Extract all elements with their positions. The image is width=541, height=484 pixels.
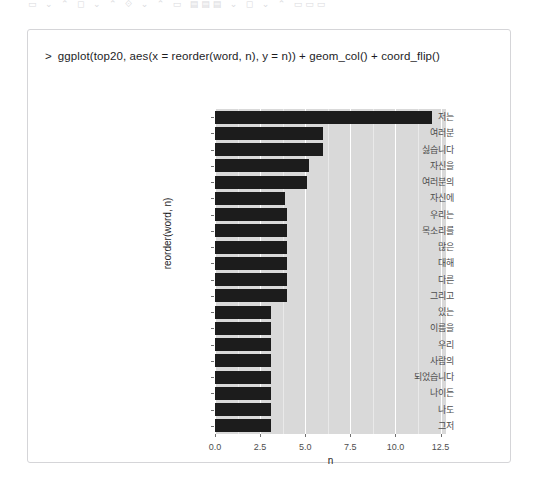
x-tick-mark <box>441 434 442 437</box>
y-tick-mark <box>211 345 214 346</box>
y-tick-label: 우리는 <box>370 210 454 220</box>
bar <box>215 257 287 270</box>
gridline-minor <box>418 109 419 434</box>
bar <box>215 273 287 286</box>
y-tick-mark <box>211 166 214 167</box>
y-tick-mark <box>211 215 214 216</box>
y-tick-mark <box>211 393 214 394</box>
gridline-major <box>441 109 442 434</box>
y-axis-title: reorder(word, n) <box>162 139 173 329</box>
gridline-minor <box>373 109 374 434</box>
bar <box>215 338 271 351</box>
x-tick-label: 12.5 <box>426 442 456 452</box>
gridline-major <box>305 109 306 434</box>
x-tick-mark <box>350 434 351 437</box>
y-tick-label: 나이든 <box>370 388 454 398</box>
y-tick-mark <box>211 198 214 199</box>
bar <box>215 289 287 302</box>
bar <box>215 387 271 400</box>
bar <box>215 306 271 319</box>
y-tick-label: 자신에 <box>370 193 454 203</box>
gridline-minor <box>238 109 239 434</box>
y-tick-label: 있는 <box>370 307 454 317</box>
bar <box>215 176 307 189</box>
y-tick-label: 여러분 <box>370 128 454 138</box>
x-tick-label: 0.0 <box>200 442 230 452</box>
gridline-major <box>215 109 216 434</box>
x-tick-mark <box>305 434 306 437</box>
gridline-major <box>350 109 351 434</box>
bar <box>215 419 271 432</box>
bar <box>215 354 271 367</box>
y-tick-mark <box>211 231 214 232</box>
y-tick-mark <box>211 410 214 411</box>
y-tick-mark <box>211 377 214 378</box>
y-tick-mark <box>211 133 214 134</box>
x-axis-title: n <box>215 455 446 466</box>
y-tick-label: 그리고 <box>370 291 454 301</box>
bar <box>215 208 287 221</box>
bar <box>215 371 271 384</box>
x-tick-label: 5.0 <box>290 442 320 452</box>
y-tick-label: 자신을 <box>370 161 454 171</box>
bar <box>215 224 287 237</box>
bar <box>215 241 287 254</box>
y-tick-mark <box>211 150 214 151</box>
console-prompt: > <box>45 50 52 62</box>
gridline-minor <box>283 109 284 434</box>
y-tick-label: 되었습니다 <box>370 372 454 382</box>
y-tick-mark <box>211 117 214 118</box>
y-tick-label: 대해 <box>370 258 454 268</box>
y-tick-label: 다른 <box>370 275 454 285</box>
bar <box>215 322 271 335</box>
y-tick-label: 이름을 <box>370 323 454 333</box>
y-tick-label: 많은 <box>370 242 454 252</box>
y-tick-label: 나도 <box>370 405 454 415</box>
console-command-line: >ggplot(top20, aes(x = reorder(word, n),… <box>45 50 440 62</box>
x-tick-label: 7.5 <box>335 442 365 452</box>
y-tick-mark <box>211 280 214 281</box>
x-tick-label: 2.5 <box>245 442 275 452</box>
scanned-toolbar-strip: ▭ ⌄ ⌃ ◻ ⌄ ⌃ ⟐ ⌄ ⌃ ▭ ▤▤▤ ⌄ ◻ ⌄ ⌃ ▭▭▭ <box>0 0 541 12</box>
x-tick-mark <box>395 434 396 437</box>
y-tick-label: 우리 <box>370 340 454 350</box>
y-tick-label: 여러분의 <box>370 177 454 187</box>
y-tick-label: 사람의 <box>370 356 454 366</box>
y-tick-label: 저는 <box>370 112 454 122</box>
x-tick-label: 10.0 <box>380 442 410 452</box>
y-tick-label: 그저 <box>370 421 454 431</box>
x-tick-mark <box>215 434 216 437</box>
bar <box>215 143 323 156</box>
y-tick-mark <box>211 361 214 362</box>
gridline-minor <box>328 109 329 434</box>
y-tick-mark <box>211 328 214 329</box>
bar <box>215 159 309 172</box>
console-command-text: ggplot(top20, aes(x = reorder(word, n), … <box>58 50 440 62</box>
y-tick-mark <box>211 312 214 313</box>
bar <box>215 192 285 205</box>
y-tick-mark <box>211 247 214 248</box>
y-tick-mark <box>211 182 214 183</box>
bar <box>215 403 271 416</box>
ggplot-figure: reorder(word, n) n 저는여러분싫습니다자신을여러분의자신에우리… <box>124 78 454 453</box>
r-console-output-card: >ggplot(top20, aes(x = reorder(word, n),… <box>27 29 511 463</box>
y-tick-label: 목소리를 <box>370 226 454 236</box>
y-tick-mark <box>211 263 214 264</box>
plot-panel <box>215 109 446 434</box>
gridline-major <box>395 109 396 434</box>
y-tick-mark <box>211 426 214 427</box>
gridline-major <box>260 109 261 434</box>
y-tick-mark <box>211 296 214 297</box>
x-tick-mark <box>260 434 261 437</box>
y-tick-label: 싫습니다 <box>370 145 454 155</box>
bar <box>215 127 323 140</box>
